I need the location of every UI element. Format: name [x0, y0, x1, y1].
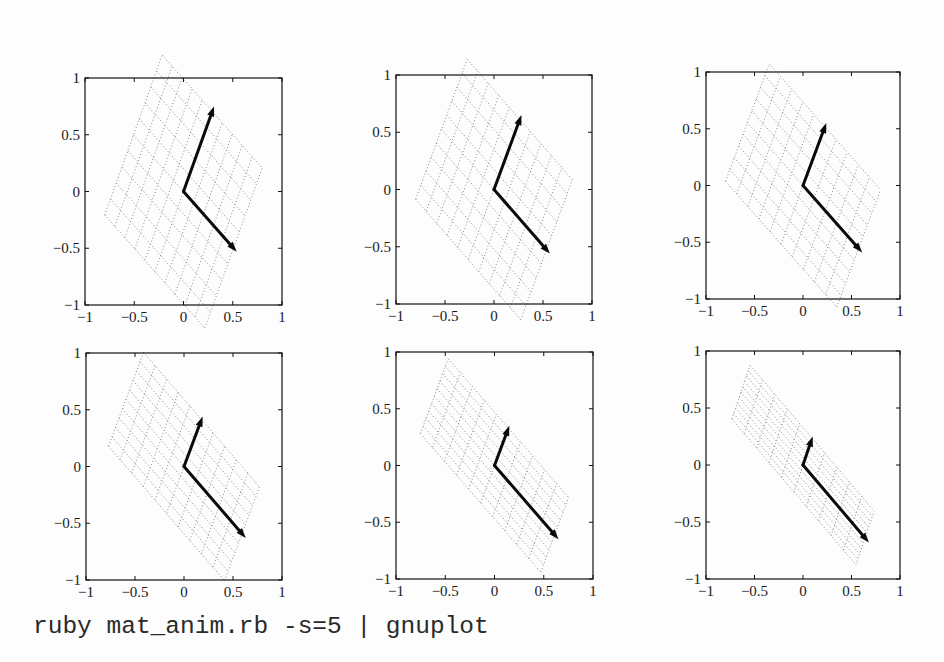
y-tick-label: −1 — [685, 571, 701, 587]
y-tick-label: 0.5 — [372, 401, 391, 417]
x-tick-label: 0.5 — [223, 309, 242, 325]
y-tick-label: 0 — [74, 459, 82, 475]
vector-b-arrow-icon — [803, 437, 813, 466]
x-tick-label: 1 — [589, 583, 597, 599]
y-tick-label: 0.5 — [682, 121, 701, 137]
plot-panel-3: −1−0.500.51−1−0.500.51 — [706, 72, 900, 299]
y-tick-label: 0.5 — [682, 400, 701, 416]
plot-canvas: −1−0.500.51−1−0.500.51 — [396, 75, 592, 304]
vector-a-arrow-icon — [803, 186, 862, 253]
y-tick-label: −1 — [65, 572, 81, 588]
x-tick-label: 1 — [588, 308, 596, 324]
x-tick-label: −0.5 — [741, 303, 768, 319]
vector-a-arrow-icon — [494, 190, 550, 254]
x-tick-label: 1 — [278, 309, 286, 325]
plot-panel-2: −1−0.500.51−1−0.500.51 — [396, 75, 592, 304]
x-tick-label: 0 — [180, 309, 188, 325]
x-tick-label: 0 — [799, 583, 807, 599]
x-tick-label: 0 — [490, 308, 498, 324]
x-tick-label: 1 — [278, 584, 286, 600]
grid-line — [457, 400, 485, 475]
y-tick-label: 1 — [73, 70, 81, 86]
x-tick-label: 1 — [896, 303, 904, 319]
x-tick-label: 0 — [180, 584, 188, 600]
y-tick-label: 1 — [694, 343, 702, 359]
y-tick-label: 0 — [694, 178, 702, 194]
grid-line — [739, 397, 863, 543]
grid-line — [128, 151, 228, 264]
y-tick-label: −0.5 — [53, 240, 80, 256]
y-tick-label: −0.5 — [674, 514, 701, 530]
x-tick-label: 1 — [896, 583, 904, 599]
y-tick-label: 1 — [74, 345, 82, 361]
plot-canvas: −1−0.500.51−1−0.500.51 — [86, 353, 282, 580]
x-tick-label: −0.5 — [741, 583, 768, 599]
plot-canvas: −1−0.500.51−1−0.500.51 — [706, 72, 900, 299]
vector-a-arrow-icon — [184, 467, 246, 539]
y-tick-label: −0.5 — [54, 515, 81, 531]
y-tick-label: 0.5 — [372, 124, 391, 140]
grid-line — [432, 404, 552, 543]
plot-canvas: −1−0.500.51−1−0.500.51 — [706, 351, 900, 579]
grid-line — [732, 419, 856, 565]
grid-line — [730, 169, 841, 295]
y-tick-label: −0.5 — [364, 239, 391, 255]
grid-line — [447, 95, 499, 235]
x-tick-label: 0.5 — [534, 308, 553, 324]
y-tick-label: 0 — [384, 182, 392, 198]
vector-a-arrow-icon — [495, 466, 559, 540]
plot-canvas: −1−0.500.51−1−0.500.51 — [85, 78, 282, 305]
y-tick-label: 0 — [73, 184, 81, 200]
grid-line — [423, 426, 543, 565]
y-tick-label: −0.5 — [674, 234, 701, 250]
grid-line — [416, 199, 521, 320]
grid-line — [437, 83, 489, 223]
y-tick-label: 0 — [384, 458, 392, 474]
x-tick-label: 0 — [491, 583, 499, 599]
plot-canvas: −1−0.500.51−1−0.500.51 — [396, 352, 593, 579]
y-tick-label: −1 — [64, 297, 80, 313]
x-tick-label: −0.5 — [121, 584, 148, 600]
grid-line — [739, 146, 850, 272]
plot-panel-6: −1−0.500.51−1−0.500.51 — [706, 351, 900, 579]
grid-line — [108, 352, 143, 446]
plot-panel-1: −1−0.500.51−1−0.500.51 — [85, 78, 282, 305]
grid-line — [132, 379, 167, 473]
grid-line — [432, 373, 460, 448]
y-tick-label: −1 — [375, 571, 391, 587]
y-tick-label: −1 — [375, 296, 391, 312]
grid-line — [421, 185, 526, 306]
y-tick-label: 1 — [384, 344, 392, 360]
plot-panel-4: −1−0.500.51−1−0.500.51 — [86, 353, 282, 580]
x-tick-label: −0.5 — [121, 309, 148, 325]
grid-line — [734, 414, 858, 560]
y-tick-label: 0.5 — [61, 127, 80, 143]
y-tick-label: 1 — [384, 67, 392, 83]
grid-line — [122, 167, 222, 280]
command-caption: ruby mat_anim.rb -s=5 | gnuplot — [33, 612, 489, 642]
y-tick-label: 0 — [694, 457, 702, 473]
grid-line — [744, 380, 762, 434]
x-tick-label: 0 — [799, 303, 807, 319]
x-tick-label: 0.5 — [842, 303, 861, 319]
plot-panel-5: −1−0.500.51−1−0.500.51 — [396, 352, 593, 579]
y-tick-label: 0.5 — [62, 402, 81, 418]
y-tick-label: 1 — [694, 64, 702, 80]
x-tick-label: 0.5 — [534, 583, 553, 599]
grid-line — [734, 158, 845, 284]
x-tick-label: −0.5 — [431, 308, 458, 324]
grid-line — [431, 157, 536, 278]
vector-a-arrow-icon — [184, 192, 237, 252]
x-tick-label: 0.5 — [842, 583, 861, 599]
vector-a-arrow-icon — [803, 465, 869, 543]
vector-b-arrow-icon — [184, 417, 203, 467]
y-tick-label: −1 — [685, 291, 701, 307]
x-tick-label: 0.5 — [224, 584, 243, 600]
vector-b-arrow-icon — [184, 106, 215, 191]
y-tick-label: −0.5 — [364, 514, 391, 530]
x-tick-label: −0.5 — [432, 583, 459, 599]
